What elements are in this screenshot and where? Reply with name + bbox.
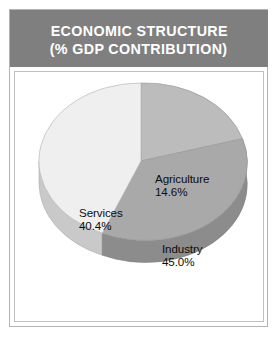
pie-chart-3d [14,71,264,322]
pie-label-services-value: 40.4% [79,219,123,232]
page-title-line-2: (% GDP CONTRIBUTION) [50,40,228,58]
figure-root: ECONOMIC STRUCTURE (% GDP CONTRIBUTION) … [0,0,279,337]
pie-label-agriculture-value: 14.6% [155,185,209,198]
chart-panel: Agriculture 14.6% Services 40.4% Industr… [14,71,264,322]
pie-label-industry-name: Industry [162,242,202,255]
pie-label-services-name: Services [79,206,123,219]
pie-label-services: Services 40.4% [79,206,123,233]
pie-label-agriculture: Agriculture 14.6% [155,172,209,199]
pie-label-industry-value: 45.0% [162,255,202,268]
pie-label-industry: Industry 45.0% [162,242,202,269]
pie-label-agriculture-name: Agriculture [155,172,209,185]
figure-title-band: ECONOMIC STRUCTURE (% GDP CONTRIBUTION) [10,10,268,67]
page-title-line-1: ECONOMIC STRUCTURE [50,22,227,40]
